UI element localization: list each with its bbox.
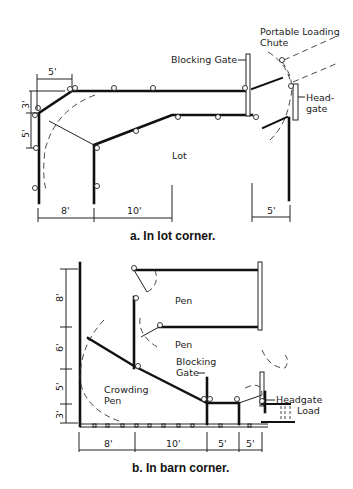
- dim-left-3ft: 3': [20, 100, 31, 109]
- headgate-a: [293, 84, 298, 120]
- pen-2-gate: [141, 327, 159, 337]
- label-head: Head-: [306, 92, 334, 103]
- dim-left-5ft: 5': [20, 129, 31, 138]
- label-pen-2: Pen: [175, 339, 192, 350]
- label-blocking: Blocking: [176, 356, 216, 367]
- pen-exit-arc: [262, 350, 288, 368]
- figure-b-barn-corner: 8' 6' 5' 3' 8' 10' 5' 5' Pen Pen Blockin…: [54, 262, 322, 475]
- outer-fence-a: [39, 91, 245, 203]
- label-headgate-b: Headgate: [276, 394, 322, 405]
- caption-a: a. In lot corner.: [130, 229, 215, 243]
- caption-b: b. In barn corner.: [132, 461, 229, 475]
- headgate-b-gate: [239, 395, 262, 403]
- label-crowding: Crowding: [104, 384, 149, 395]
- dim-right-5ft: 5': [267, 205, 276, 216]
- dim-b-left-8ft: 8': [54, 293, 65, 302]
- label-blocking-gate-b: Gate: [176, 367, 199, 378]
- headgate-b-arc: [245, 385, 262, 395]
- chute-dashed-bottom: [293, 63, 338, 82]
- diagram-canvas: 5' 3' 5' 8' 10' 5' Blocking Gate Portabl…: [0, 0, 353, 489]
- pen-1-gate: [134, 270, 147, 292]
- dim-b-bottom-8ft: 8': [104, 438, 113, 449]
- chute-leader: [268, 52, 290, 80]
- label-chute: Chute: [260, 37, 288, 48]
- dim-top-5ft: 5': [48, 66, 57, 77]
- dim-bottom-10ft: 10': [127, 205, 142, 216]
- crowding-gate-a: [49, 121, 94, 145]
- label-gate: gate: [306, 103, 328, 114]
- dim-b-bottom-5ft-b: 5': [246, 438, 255, 449]
- chute-top-wall: [252, 78, 282, 89]
- gate-swing-arc-a: [44, 95, 95, 190]
- right-wall-upper: [258, 262, 262, 330]
- label-load: Load: [297, 405, 320, 416]
- figure-a-lot-corner: 5' 3' 5' 8' 10' 5' Blocking Gate Portabl…: [20, 26, 340, 243]
- label-blocking-gate: Blocking Gate: [171, 54, 237, 65]
- dim-b-left-6ft: 6': [54, 343, 65, 352]
- dim-b-left-5ft: 5': [54, 382, 65, 391]
- hinges-b: [132, 266, 265, 404]
- label-crowding-pen: Pen: [104, 395, 121, 406]
- dim-b-bottom-5ft-a: 5': [218, 438, 227, 449]
- label-portable-loading: Portable Loading: [260, 26, 340, 37]
- chute-dashed-top: [284, 37, 335, 60]
- label-pen-1: Pen: [175, 295, 192, 306]
- crowding-gate-arc: [80, 320, 122, 422]
- label-lot: Lot: [172, 150, 187, 161]
- dim-bottom-8ft: 8': [61, 205, 70, 216]
- dim-b-bottom-10ft: 10': [166, 438, 181, 449]
- pen-1-gate-arc: [147, 270, 156, 292]
- dim-b-left-3ft: 3': [54, 410, 65, 419]
- blocking-gate-a: [246, 54, 250, 116]
